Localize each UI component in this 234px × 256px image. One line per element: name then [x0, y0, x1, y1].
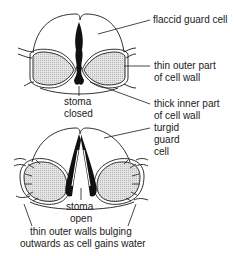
stomata-diagram: [0, 0, 234, 256]
label-stoma-closed-2: closed: [64, 108, 93, 119]
label-stoma-closed-1: stoma: [64, 96, 91, 107]
caption-line-2: outwards as cell gains water: [20, 238, 146, 249]
label-thin-outer-wall-1: thin outer part: [154, 60, 216, 71]
label-thin-outer-wall-2: of cell wall: [154, 72, 200, 83]
label-thick-inner-wall-1: thick inner part: [154, 98, 220, 109]
caption-line-1: thin outer walls bulging: [30, 226, 132, 237]
label-turgid-3: cell: [154, 146, 169, 157]
label-turgid-2: guard: [154, 134, 180, 145]
open-stoma-left-wall-icon: [65, 134, 81, 196]
open-stoma-right-wall-icon: [81, 134, 97, 196]
label-stoma-open-2: open: [70, 213, 92, 224]
label-turgid-1: turgid: [154, 122, 179, 133]
closed-stoma-pore-icon: [74, 22, 84, 85]
label-flaccid-guard-cell: flaccid guard cell: [153, 14, 227, 25]
label-thick-inner-wall-2: of cell wall: [154, 110, 200, 121]
label-stoma-open-1: stoma: [66, 201, 93, 212]
